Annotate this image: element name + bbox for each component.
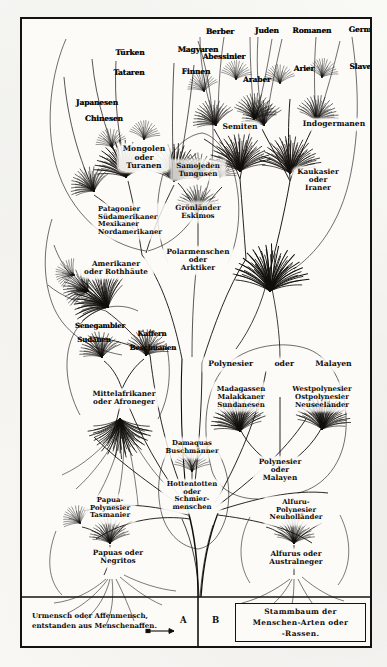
marker-b: B bbox=[212, 615, 219, 625]
node-kaukasier-line3: Iraner bbox=[297, 184, 339, 192]
tip-label-chinesen: Chinesen bbox=[85, 115, 123, 123]
figure-title: Stammbaum der Menschen-Arten oder -Rasse… bbox=[253, 606, 349, 639]
title-box: Stammbaum der Menschen-Arten oder -Rasse… bbox=[235, 603, 366, 642]
node-alfurus-line2: Australneger bbox=[269, 558, 322, 566]
tip-label-finnen: Finnen bbox=[182, 68, 210, 76]
tip-label-kaffern: Kaffern bbox=[138, 330, 167, 337]
tip-label-sudanen: Sudanen bbox=[77, 336, 110, 343]
tips-alfurus: Alfuru- Polynesier Neuholländer bbox=[266, 498, 327, 524]
header-polynesier: Polynesier bbox=[208, 360, 253, 369]
tip-label-tataren: Tataren bbox=[113, 69, 144, 77]
header-oder: oder bbox=[274, 360, 293, 369]
node-mongolen: Mongolen oder Turanen bbox=[119, 144, 170, 172]
figure-title-line2: Menschen-Arten oder bbox=[253, 617, 349, 628]
node-amerikaner-line2: oder Rothhäute bbox=[84, 268, 148, 276]
node-semiten-line1: Semiten bbox=[222, 123, 257, 132]
node-polarmenschen: Polarmenschen oder Arktiker bbox=[163, 247, 234, 274]
tip-label-beschuanen: Beschuanen bbox=[130, 344, 177, 351]
node-papuas: Papuas oder Negritos bbox=[89, 548, 147, 567]
node-indogermanen-line1: Indogermanen bbox=[303, 120, 365, 129]
tip-label-neuseelaender: Neuseeländer bbox=[292, 401, 352, 409]
node-mongolen-line3: Turanen bbox=[123, 162, 166, 171]
node-amerikaner: Amerikaner oder Rothhäute bbox=[80, 259, 152, 278]
tips-arktiker-lower: Grönländer Eskimos bbox=[171, 203, 224, 221]
caption-line1: Urmensch oder Affenmensch, bbox=[32, 611, 182, 621]
node-kaukasier: Kaukasier oder Iraner bbox=[293, 167, 343, 194]
node-polarmenschen-line3: Arktiker bbox=[167, 264, 230, 272]
node-semiten: Semiten bbox=[218, 122, 261, 133]
node-mittelafrikaner-line2: oder Afroneger bbox=[92, 398, 155, 406]
header-malayen: Malayen bbox=[315, 360, 351, 369]
node-hottentotten: Hottentotten oder Schmier- menschen bbox=[163, 480, 221, 513]
tip-label-juden: Juden bbox=[255, 27, 279, 35]
tip-label-germanen: Germanen bbox=[349, 26, 372, 34]
tip-label-arier: Arier bbox=[294, 65, 315, 73]
node-hottentotten-line4: menschen bbox=[167, 504, 217, 512]
tip-label-romanen: Romanen bbox=[293, 27, 332, 35]
engraving-frame: Türken Magyaren Tataren Finnen Japanesen… bbox=[20, 17, 372, 648]
tips-amerikaner: Patagonier Südamerikaner Mexikaner Norda… bbox=[94, 205, 166, 238]
header-polynesier-malayen: Polynesier oder Malayen bbox=[204, 359, 355, 370]
tip-label-eskimos: Eskimos bbox=[175, 212, 220, 220]
node-indogermanen: Indogermanen bbox=[299, 119, 369, 130]
tip-label-tasmanier: Tasmanier bbox=[90, 512, 130, 520]
tips-hottentotten: Damaquas Buschmänner bbox=[162, 439, 223, 457]
caption-urmensch: Urmensch oder Affenmensch, entstanden au… bbox=[32, 611, 182, 631]
marker-a: A bbox=[180, 615, 187, 625]
tip-label-neuhollaender: Neuholländer bbox=[270, 514, 323, 522]
tip-label-tuerken: Türken bbox=[115, 49, 144, 57]
tip-label-tungusen: Tungusen bbox=[176, 170, 220, 178]
tip-label-japanesen: Japanesen bbox=[76, 99, 118, 107]
tip-label-berber: Berber bbox=[206, 28, 234, 36]
tip-label-abessinier: Abessinier bbox=[203, 53, 246, 61]
tip-label-buschmaenner: Buschmänner bbox=[166, 448, 219, 456]
node-polynesier-malayen: Polynesier oder Malayen bbox=[255, 457, 305, 484]
node-mittelafrikaner: Mittelafrikaner oder Afroneger bbox=[88, 389, 159, 408]
figure-title-line1: Stammbaum der bbox=[253, 606, 349, 617]
caption-line2: entstanden aus Menschenaffen. bbox=[32, 621, 182, 631]
tip-label-slaven: Slaven bbox=[350, 63, 372, 71]
tips-malay-right: Westpolynesier Ostpolynesier Neuseelände… bbox=[288, 384, 356, 410]
tips-papuas: Papua- Polynesier Tasmanier bbox=[86, 496, 134, 522]
tip-label-araber: Araber bbox=[243, 76, 271, 84]
tip-label-senegambier: Senegambier bbox=[75, 322, 125, 329]
node-papuas-line2: Negritos bbox=[93, 557, 143, 565]
node-malay-line3: Malayen bbox=[259, 474, 301, 482]
tips-malay-left: Madagassen Malakkaner Sundanesen bbox=[213, 384, 270, 410]
node-alfurus: Alfurus oder Australneger bbox=[265, 549, 326, 568]
figure-title-line3: -Rassen. bbox=[253, 628, 349, 639]
tips-arktiker-upper: Samojeden Tungusen bbox=[172, 161, 224, 179]
tip-label-nordamerikaner: Nordamerikaner bbox=[98, 229, 162, 237]
tip-label-sundanesen: Sundanesen bbox=[217, 401, 266, 409]
